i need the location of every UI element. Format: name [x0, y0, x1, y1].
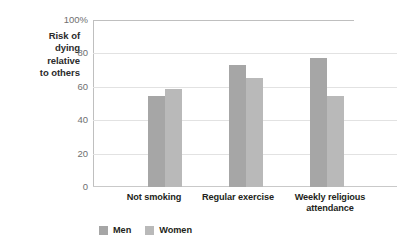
legend-label-women: Women — [159, 225, 192, 235]
legend-item-women: Women — [145, 225, 192, 235]
bar-not-smoking-women — [165, 89, 182, 188]
y-tick-label-20: 20 — [48, 149, 88, 159]
bar-regular-exercise-men — [229, 65, 246, 187]
y-tick-label-80: 80 — [48, 48, 88, 58]
bar-weekly-religious-attendance-men — [310, 58, 327, 187]
plot-area — [93, 20, 397, 187]
bar-chart-figure: Risk of dying relative to others 100% 80… — [0, 0, 410, 243]
y-tick-label-60: 60 — [48, 82, 88, 92]
category-label-regular-exercise-line-1: Regular exercise — [190, 192, 286, 203]
legend-swatch-women-icon — [145, 226, 154, 235]
bar-regular-exercise-women — [246, 78, 263, 187]
category-label-not-smoking-line-1: Not smoking — [112, 192, 196, 203]
y-tick-label-100: 100% — [48, 15, 88, 25]
category-label-not-smoking: Not smoking — [112, 192, 196, 203]
category-label-weekly-religious-attendance: Weekly religious attendance — [280, 192, 380, 214]
legend-swatch-men-icon — [99, 226, 108, 235]
legend-item-men: Men — [99, 225, 131, 235]
chart-legend: Men Women — [99, 225, 192, 235]
category-label-regular-exercise: Regular exercise — [190, 192, 286, 203]
bar-not-smoking-men — [148, 96, 165, 187]
category-label-weekly-religious-attendance-line-1: Weekly religious — [280, 192, 380, 203]
bar-weekly-religious-attendance-women — [327, 96, 344, 187]
y-tick-label-40: 40 — [48, 115, 88, 125]
y-axis-tick-labels: 100% 80 60 40 20 0 — [48, 20, 88, 187]
gridline-80 — [93, 53, 397, 54]
legend-label-men: Men — [113, 225, 131, 235]
category-label-weekly-religious-attendance-line-2: attendance — [280, 203, 380, 214]
y-tick-label-0: 0 — [48, 182, 88, 192]
